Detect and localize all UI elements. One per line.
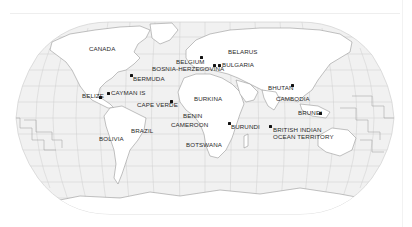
label-british-indian-ocean-territory: BRITISH INDIAN OCEAN TERRITORY [273, 126, 334, 140]
label-burkina: BURKINA [194, 95, 222, 102]
marker-bosnia-herzegovina[interactable] [213, 64, 216, 67]
map-canvas [0, 0, 412, 227]
marker-cape-verde[interactable] [170, 100, 173, 103]
label-botswana: BOTSWANA [186, 141, 222, 148]
label-bhutan: BHUTAN [268, 84, 294, 91]
label-cameroon: CAMEROON [171, 121, 208, 128]
marker-brunei[interactable] [319, 112, 322, 115]
marker-belgium[interactable] [200, 56, 203, 59]
marker-cayman-is[interactable] [107, 92, 110, 95]
marker-bhutan[interactable] [291, 84, 294, 87]
label-bermuda: BERMUDA [133, 75, 165, 82]
label-cambodia: CAMBODIA [276, 95, 310, 102]
label-burundi: BURUNDI [231, 123, 260, 130]
label-cayman-is: CAYMAN IS [111, 89, 145, 96]
marker-british-indian-ocean-territory[interactable] [269, 125, 272, 128]
label-belgium: BELGIUM [176, 58, 205, 65]
world-map[interactable]: CANADA BERMUDA BELIZE CAYMAN IS CAPE VER… [0, 0, 412, 227]
label-belarus: BELARUS [228, 48, 258, 55]
label-benin: BENIN [183, 112, 202, 119]
marker-bulgaria[interactable] [218, 64, 221, 67]
label-canada: CANADA [89, 45, 115, 52]
marker-belize[interactable] [99, 96, 102, 99]
label-brazil: BRAZIL [131, 127, 153, 134]
label-bolivia: BOLIVIA [99, 135, 124, 142]
land-madagascar [244, 134, 248, 148]
label-bulgaria: BULGARIA [222, 61, 254, 68]
